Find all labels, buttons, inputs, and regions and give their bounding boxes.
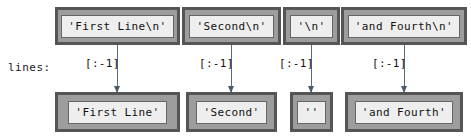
diagram-column: '\n' [:-1] '' <box>283 0 340 137</box>
result-string-value: 'and Fourth' <box>355 101 453 124</box>
source-string-box: 'and Fourth\n' <box>341 7 467 45</box>
result-string-box: 'and Fourth' <box>345 92 463 132</box>
source-string-box: 'Second\n' <box>182 7 281 45</box>
diagram-column: 'First Line\n' [:-1] 'First Line' <box>55 0 180 137</box>
source-string-value: 'and Fourth\n' <box>348 15 460 38</box>
slice-operation-label: [:-1] <box>279 57 314 70</box>
slice-operation-label: [:-1] <box>372 57 407 70</box>
slice-operation-label: [:-1] <box>85 57 120 70</box>
result-string-box: 'Second' <box>186 92 277 132</box>
slice-operation-label: [:-1] <box>199 57 234 70</box>
source-string-value: '\n' <box>290 15 332 38</box>
result-string-box: 'First Line' <box>55 92 180 132</box>
source-string-box: 'First Line\n' <box>55 7 180 45</box>
diagram-column: 'and Fourth\n' [:-1] 'and Fourth' <box>341 0 467 137</box>
lines-row-label: lines: <box>8 61 51 74</box>
result-string-value: 'First Line' <box>68 101 166 124</box>
source-string-value: 'First Line\n' <box>61 15 173 38</box>
result-string-box: '' <box>290 92 333 132</box>
source-string-box: '\n' <box>283 7 340 45</box>
diagram-column: 'Second\n' [:-1] 'Second' <box>182 0 281 137</box>
source-string-value: 'Second\n' <box>189 15 273 38</box>
string-slicing-diagram: lines: 'First Line\n' [:-1] 'First Line'… <box>0 0 471 137</box>
result-string-value: '' <box>297 101 325 124</box>
result-string-value: 'Second' <box>196 101 266 124</box>
